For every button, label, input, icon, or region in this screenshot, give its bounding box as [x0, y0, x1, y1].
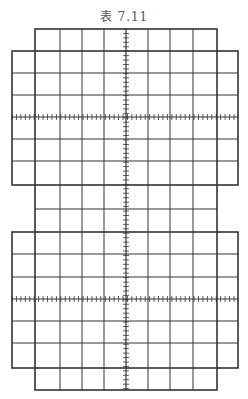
- graticule-grid: [0, 0, 248, 399]
